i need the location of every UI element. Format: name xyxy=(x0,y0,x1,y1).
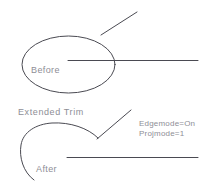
diagram-canvas: Before Extended Trim After Edgemode=On P… xyxy=(0,0,214,185)
before-group: Before xyxy=(22,12,198,93)
after-label: After xyxy=(36,164,57,174)
extended-trim-diagram: Before Extended Trim After Edgemode=On P… xyxy=(0,0,214,185)
before-diagonal-line xyxy=(101,12,137,35)
after-diagonal-line xyxy=(97,110,131,139)
after-trimmed-arc xyxy=(21,123,98,180)
edgemode-note: Edgemode=On xyxy=(139,119,195,128)
diagram-title: Extended Trim xyxy=(18,107,84,117)
before-label: Before xyxy=(31,65,60,75)
projmode-note: Projmode=1 xyxy=(139,129,185,138)
mode-notes: Edgemode=On Projmode=1 xyxy=(139,119,195,138)
